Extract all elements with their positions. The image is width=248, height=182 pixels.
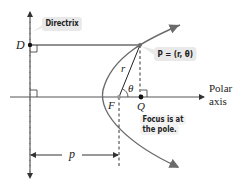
point-f [117,95,121,99]
point-p [138,43,142,47]
point-p-callout: P = (r, θ) [154,47,197,61]
focus-label: F [108,100,115,111]
polar-axis-label-line2: axis [209,96,227,107]
distance-p-label: p [69,148,75,160]
point-d [28,43,32,47]
focus-note-line2: the pole. [140,125,179,135]
point-q-label: Q [137,101,145,112]
point-q [139,95,144,100]
radius-label: r [121,63,125,74]
point-d-label: D [16,39,25,51]
polar-axis-label-line1: Polar [209,83,232,94]
angle-label: θ [128,83,133,94]
directrix-callout: Directrix [42,17,82,31]
focus-note-line1: Focus is at [140,115,186,125]
